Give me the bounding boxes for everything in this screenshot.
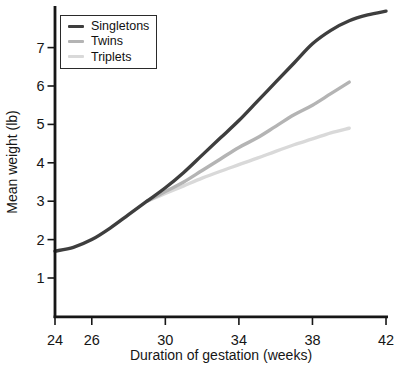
y-tick-label: 4 (36, 155, 44, 171)
singletons-line-swatch-icon (68, 25, 84, 28)
x-tick-label: 26 (84, 332, 100, 348)
triplets-curve (147, 128, 349, 201)
legend-label-triplets: Triplets (91, 51, 132, 64)
x-tick-label: 42 (378, 332, 394, 348)
y-tick-label: 7 (36, 40, 44, 56)
twins-line-swatch-icon (68, 40, 84, 43)
y-tick-label: 5 (36, 116, 44, 132)
y-tick-label: 2 (36, 232, 44, 248)
x-axis-label: Duration of gestation (weeks) (130, 347, 312, 363)
legend-label-twins: Twins (91, 35, 123, 48)
y-tick-label: 6 (36, 78, 44, 94)
y-tick-label: 3 (36, 193, 44, 209)
triplets-line-swatch-icon (68, 55, 84, 58)
legend-item-singletons: Singletons (68, 20, 150, 33)
legend-item-twins: Twins (68, 35, 150, 48)
legend: Singletons Twins Triplets (60, 15, 157, 69)
x-tick-label: 30 (157, 332, 173, 348)
legend-label-singletons: Singletons (91, 20, 149, 33)
twins-curve (147, 82, 349, 201)
chart-figure: Singletons Twins Triplets 24263034384212… (0, 0, 401, 376)
x-tick-label: 34 (231, 332, 247, 348)
x-tick-label: 24 (47, 332, 63, 348)
x-tick-label: 38 (304, 332, 320, 348)
y-tick-label: 1 (36, 270, 44, 286)
y-axis-label: Mean weight (lb) (4, 110, 20, 214)
legend-item-triplets: Triplets (68, 51, 150, 64)
